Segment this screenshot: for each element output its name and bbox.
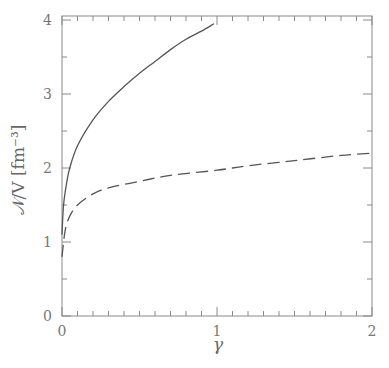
y-tick-label: 4 — [43, 12, 52, 28]
x-tick-label: 0 — [58, 323, 67, 339]
series-lines — [62, 24, 372, 257]
series-solid-line — [62, 24, 214, 235]
y-axis-label: 𝒩/V [fm⁻³] — [8, 125, 28, 216]
plot-frame — [62, 16, 372, 316]
x-axis-label: γ — [213, 334, 224, 354]
series-dashed-line — [62, 153, 372, 257]
x-tick-label: 2 — [368, 323, 377, 339]
plot-frame-rect — [62, 16, 372, 316]
axis-ticks — [62, 16, 372, 316]
tick-labels: 01201234 — [43, 12, 376, 339]
y-tick-label: 1 — [43, 234, 52, 250]
y-tick-label: 2 — [43, 160, 52, 176]
chart: 01201234 γ 𝒩/V [fm⁻³] — [0, 0, 389, 368]
y-tick-label: 0 — [43, 308, 52, 324]
y-tick-label: 3 — [43, 86, 52, 102]
